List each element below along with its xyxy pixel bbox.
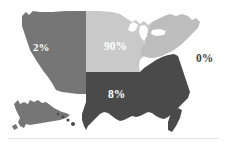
- west-region-shape: [22, 11, 86, 94]
- us-region-map: [0, 0, 227, 145]
- alaska-aleutian-shape: [12, 124, 18, 130]
- bottom-divider: [8, 138, 219, 139]
- hawaii-island-3: [66, 118, 69, 121]
- alaska-shape: [14, 100, 70, 128]
- region-label-midwest: 90%: [104, 41, 127, 53]
- northeast-region-shape: [140, 14, 200, 58]
- region-label-south: 8%: [108, 89, 125, 101]
- hawaii-island-1: [57, 113, 59, 115]
- map-region-alaska: [12, 100, 70, 130]
- hawaii-island-2: [62, 116, 65, 119]
- hawaii-island-4: [71, 122, 75, 126]
- region-label-northeast: 0%: [196, 53, 213, 65]
- map-figure-container: 2% 90% 8% 0%: [0, 0, 227, 145]
- map-region-west: [22, 11, 86, 94]
- region-label-west: 2%: [33, 42, 50, 53]
